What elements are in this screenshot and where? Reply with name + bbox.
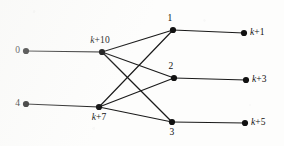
graph-node-nk5 — [242, 120, 248, 126]
node-label-n0: 0 — [15, 46, 20, 56]
graph-edge — [26, 104, 99, 107]
graph-node-n3 — [169, 119, 175, 125]
graph-node-n4 — [23, 101, 29, 107]
graph-node-nk1 — [241, 30, 247, 36]
graph-node-nk10 — [99, 49, 105, 55]
graph-edge — [102, 52, 172, 122]
graph-edge — [174, 78, 246, 80]
graph-edge — [102, 52, 174, 78]
graph-node-n0 — [23, 48, 29, 54]
graph-edge — [99, 78, 174, 107]
graph-edge — [172, 122, 245, 123]
graph-node-n2 — [171, 75, 177, 81]
node-label-nk7: k+7 — [92, 113, 107, 123]
node-label-nk5: k+5 — [251, 118, 266, 128]
node-label-n2: 2 — [169, 62, 174, 72]
graph-node-n1 — [170, 27, 176, 33]
node-label-nk10: k+10 — [90, 36, 110, 46]
graph-edge — [26, 51, 102, 52]
node-label-n4: 4 — [15, 99, 20, 109]
edges-group — [26, 30, 246, 123]
node-label-nk3: k+3 — [252, 75, 267, 85]
graph-edge — [99, 107, 172, 122]
graph-edge — [173, 30, 244, 33]
graph-node-nk3 — [243, 77, 249, 83]
graph-node-nk7 — [96, 104, 102, 110]
node-label-n1: 1 — [168, 14, 173, 24]
graph-canvas — [0, 0, 284, 146]
graph-figure: 04k+10k+7123k+1k+3k+5 — [0, 0, 284, 146]
node-label-n3: 3 — [170, 128, 175, 138]
node-label-nk1: k+1 — [250, 28, 265, 38]
